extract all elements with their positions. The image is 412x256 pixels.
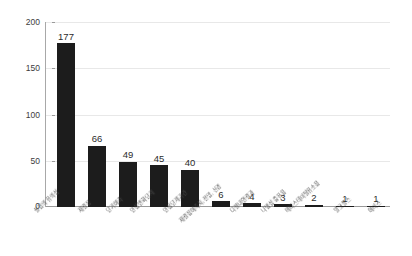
y-axis-ticks: 200 150 100 50 0 bbox=[9, 22, 40, 207]
y-tick-label-100: 100 bbox=[12, 111, 40, 120]
bar-slot-6: 4 bbox=[243, 22, 261, 207]
bar-slot-3: 45 bbox=[150, 22, 168, 207]
bar-slot-7: 3 bbox=[274, 22, 292, 207]
y-tick-label-50: 50 bbox=[12, 157, 40, 166]
bar-1 bbox=[88, 146, 106, 207]
bar-value-3: 45 bbox=[154, 154, 165, 164]
bar-0 bbox=[57, 43, 75, 207]
bar-slot-2: 49 bbox=[119, 22, 137, 207]
bar-3 bbox=[150, 165, 168, 207]
bar-slot-1: 66 bbox=[88, 22, 106, 207]
bar-slot-5: 6 bbox=[212, 22, 230, 207]
bar-value-1: 66 bbox=[92, 134, 103, 144]
bars-layer: 177 66 49 45 40 6 4 3 bbox=[45, 22, 390, 207]
bar-value-0: 177 bbox=[58, 32, 74, 42]
bar-slot-0: 177 bbox=[57, 22, 75, 207]
bar-slot-4: 40 bbox=[181, 22, 199, 207]
bar-value-8: 2 bbox=[311, 193, 316, 203]
x-axis-labels: 실험의 유의성 재결정 단기예측 만성변화단계 만성단계기간 재결정예측치, 전… bbox=[45, 207, 390, 256]
y-tick-label-200: 200 bbox=[12, 18, 40, 27]
bar-slot-9: 1 bbox=[336, 22, 354, 207]
bar-slot-8: 2 bbox=[305, 22, 323, 207]
y-tick-label-150: 150 bbox=[12, 64, 40, 73]
bar-value-2: 49 bbox=[123, 150, 134, 160]
bar-value-5: 6 bbox=[218, 190, 223, 200]
bar-slot-10: 1 bbox=[367, 22, 385, 207]
bar-chart: 200 150 100 50 0 177 66 49 45 40 bbox=[0, 0, 412, 256]
bar-value-4: 40 bbox=[185, 158, 196, 168]
